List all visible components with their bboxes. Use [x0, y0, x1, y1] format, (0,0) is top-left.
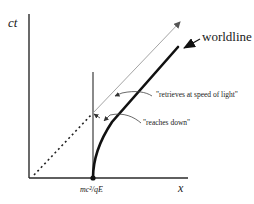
worldline-label: worldline	[202, 30, 252, 43]
worldline-curve	[93, 47, 178, 178]
retrieves-label: "retrieves at speed of light"	[156, 91, 238, 99]
light-ray	[93, 22, 180, 113]
dashed-light-ray	[34, 114, 92, 175]
event-dot	[90, 175, 95, 180]
intercept-arrow	[94, 114, 100, 118]
retrieves-arrow	[115, 92, 152, 96]
worldline-pointer-arrow	[184, 39, 200, 48]
reaches-arrow	[104, 114, 141, 123]
reaches-label: "reaches down"	[143, 119, 190, 127]
x-axis-label: x	[178, 182, 183, 194]
ct-axis-label: ct	[8, 16, 17, 29]
x-tick-label: mc²/qE	[80, 186, 103, 194]
